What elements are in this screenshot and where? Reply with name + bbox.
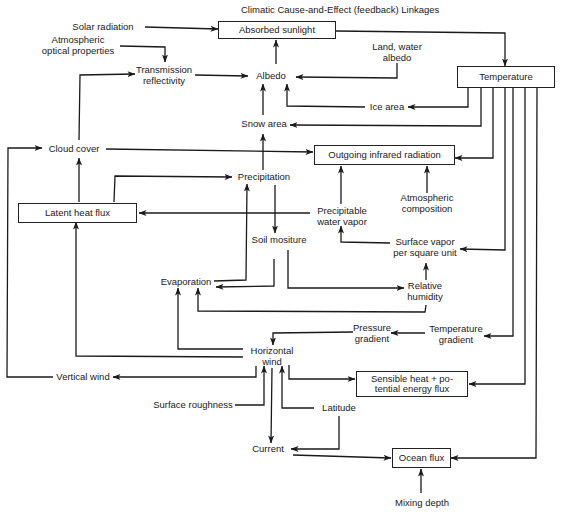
- node-albedo: Albedo: [256, 71, 286, 82]
- node-label: gradient: [353, 333, 391, 344]
- edge-hwind-sensible: [289, 365, 355, 379]
- edge-temp-ocean: [451, 88, 537, 458]
- edge-ice-albedo: [287, 84, 365, 107]
- node-solar-radiation: Solar radiation: [72, 22, 133, 33]
- edge-vwind-cloud: [7, 148, 53, 377]
- node-surface-roughness: Surface roughness: [153, 400, 233, 411]
- node-relative-humidity: Relativehumidity: [407, 281, 442, 302]
- edge-cloud-outgoing: [106, 149, 313, 152]
- node-pressure-gradient: Pressuregradient: [353, 323, 391, 344]
- edge-current-ocean: [293, 455, 391, 458]
- node-land-water-albedo: Land, wateralbedo: [372, 42, 422, 63]
- edge-hwind-evap: [178, 288, 243, 349]
- node-label: Relative: [407, 281, 442, 292]
- edge-soil-rh: [288, 250, 404, 288]
- edge-atmoptical-transmission: [120, 46, 165, 62]
- node-label: per square unit: [393, 247, 456, 258]
- edge-pressure-hwind: [273, 332, 353, 345]
- node-snow-area: Snow area: [241, 119, 286, 130]
- node-label: Horizontal: [251, 346, 294, 357]
- node-label: Latent heat flux: [45, 208, 110, 219]
- node-latent-heat-flux: Latent heat flux: [18, 203, 137, 223]
- edge-latitude-current: [291, 416, 339, 449]
- node-label: Transmission: [136, 65, 192, 76]
- edge-latitude-hwind: [282, 366, 314, 408]
- diagram-title: Climatic Cause-and-Effect (feedback) Lin…: [241, 4, 439, 15]
- edge-solar-absorbed: [145, 27, 218, 29]
- node-label: tential energy flux: [375, 384, 449, 395]
- node-label: Precipitable: [317, 206, 367, 217]
- edge-latent-precip: [114, 176, 232, 202]
- node-horizontal-wind: Horizontalwind: [251, 346, 294, 367]
- node-surface-vapor: Surface vaporper square unit: [393, 237, 456, 258]
- node-evaporation: Evaporation: [161, 277, 212, 288]
- edge-roughness-hwind: [235, 366, 264, 405]
- node-atm-composition: Atmosphericcomposition: [401, 193, 454, 214]
- node-label: humidity: [407, 291, 442, 302]
- node-mixing-depth: Mixing depth: [395, 498, 449, 509]
- edge-transmission-albedo: [195, 75, 248, 76]
- edge-evap-precip: [214, 184, 247, 281]
- node-label: Absorbed sunlight: [239, 25, 315, 36]
- node-outgoing-ir: Outgoing infrared radiation: [314, 145, 455, 165]
- node-label: Pressure: [353, 323, 391, 334]
- node-ocean-flux: Ocean flux: [392, 448, 451, 468]
- node-latitude: Latitude: [322, 403, 356, 414]
- edge-temp-tempgrad: [484, 88, 513, 336]
- node-label: water vapor: [317, 216, 367, 227]
- edge-temp-surfacevapor: [460, 88, 505, 250]
- node-label: albedo: [372, 52, 422, 63]
- node-label: reflectivity: [136, 75, 192, 86]
- edge-hwind-current: [271, 368, 272, 443]
- node-label: optical properties: [42, 45, 114, 56]
- node-label: Outgoing infrared radiation: [328, 150, 441, 161]
- node-label: Temperature: [479, 72, 532, 83]
- edge-temp-outgoing: [455, 88, 493, 158]
- node-label: gradient: [429, 334, 482, 345]
- edge-hwind-latent: [76, 222, 243, 357]
- edge-hwind-vwind: [113, 366, 256, 377]
- edge-land-albedo: [296, 63, 397, 78]
- node-soil-moisture: Soil mositure: [252, 235, 307, 246]
- node-cloud-cover: Cloud cover: [49, 144, 100, 155]
- node-label: composition: [401, 203, 454, 214]
- node-temperature-gradient: Temperaturegradient: [429, 324, 482, 345]
- node-ice-area: Ice area: [370, 102, 404, 113]
- node-label: Atmospheric: [42, 35, 114, 46]
- edge-rh-evap: [198, 288, 426, 312]
- node-current: Current: [252, 444, 284, 455]
- node-vertical-wind: Vertical wind: [56, 372, 109, 383]
- edge-soil-evap: [216, 259, 274, 287]
- node-label: Ocean flux: [399, 453, 444, 464]
- node-atm-optical: Atmosphericoptical properties: [42, 35, 114, 56]
- node-precipitation: Precipitation: [238, 172, 290, 183]
- node-label: Temperature: [429, 324, 482, 335]
- node-precipitable-water-vapor: Precipitablewater vapor: [317, 206, 367, 227]
- edge-surfacevapor-vapor: [341, 226, 390, 243]
- node-label: Atmospheric: [401, 193, 454, 204]
- edge-cloud-transmission: [79, 74, 135, 140]
- edge-temp-ice: [408, 88, 468, 107]
- node-transmission: Transmissionreflectivity: [136, 65, 192, 86]
- node-label: wind: [251, 356, 294, 367]
- node-absorbed-sunlight: Absorbed sunlight: [218, 21, 336, 39]
- node-sensible-heat: Sensible heat + po-tential energy flux: [356, 371, 468, 397]
- node-label: Land, water: [372, 42, 422, 53]
- node-label: Surface vapor: [393, 237, 456, 248]
- node-temperature: Temperature: [457, 66, 555, 88]
